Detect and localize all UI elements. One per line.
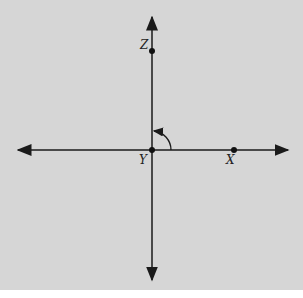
label-x: X (226, 153, 235, 167)
diagram-canvas: Z Y X (0, 0, 303, 290)
label-y: Y (139, 153, 147, 167)
point-z (149, 48, 155, 54)
axes-svg (0, 0, 303, 290)
point-y (149, 147, 155, 153)
label-z: Z (140, 38, 148, 52)
angle-arrow (154, 131, 171, 150)
